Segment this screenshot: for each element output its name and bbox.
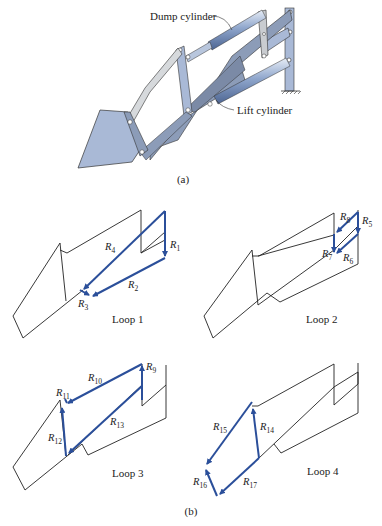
loop-3-diagram: R9 R10 R11 R12 R13 Loop 3: [13, 361, 166, 490]
label-r11: R11: [55, 387, 70, 401]
label-r1: R1: [169, 239, 180, 253]
vector-r4: [84, 211, 165, 289]
label-r2: R2: [127, 279, 138, 293]
loop-1-label: Loop 1: [112, 313, 143, 325]
lower-arm: [140, 112, 192, 160]
bucket-link: [126, 48, 182, 124]
part-a-caption: (a): [177, 173, 190, 186]
loop-2-diagram: R5 R6 R7 R8 Loop 2: [204, 210, 372, 338]
label-r15: R15: [212, 421, 227, 435]
label-r16: R16: [192, 476, 207, 490]
vector-r12: [62, 408, 66, 456]
vector-r16: [206, 470, 217, 496]
part-b-caption: (b): [185, 505, 198, 518]
label-r14: R14: [259, 421, 274, 435]
loop-4-label: Loop 4: [307, 465, 339, 477]
label-r13: R13: [109, 416, 124, 430]
loop-2-label: Loop 2: [306, 313, 337, 325]
bucket: [78, 110, 148, 168]
label-r10: R10: [87, 372, 102, 386]
label-r6: R6: [342, 252, 353, 266]
dump-cylinder-label: Dump cylinder: [150, 10, 217, 22]
loop-3-label: Loop 3: [112, 467, 144, 479]
vector-r3: [80, 290, 89, 295]
label-r17: R17: [242, 476, 257, 490]
label-r8: R8: [339, 211, 350, 225]
lift-cylinder-label: Lift cylinder: [237, 104, 293, 116]
vector-r15: [207, 402, 252, 464]
label-r3: R3: [77, 298, 88, 312]
label-r9: R9: [145, 361, 156, 375]
loader-drawing: Dump cylinder Lift cylinder (a): [78, 8, 301, 186]
front-loader-figure: Dump cylinder Lift cylinder (a) R1 R2 R3…: [0, 0, 382, 526]
loop-4-diagram: R14 R15 R16 R17 Loop 4: [192, 363, 358, 496]
label-r4: R4: [104, 241, 115, 255]
loop-1-diagram: R1 R2 R3 R4 Loop 1: [13, 210, 180, 338]
label-r12: R12: [47, 432, 62, 446]
label-r5: R5: [361, 215, 372, 229]
label-r7: R7: [321, 248, 332, 262]
vector-r2: [93, 258, 165, 296]
vector-r14: [253, 409, 259, 458]
